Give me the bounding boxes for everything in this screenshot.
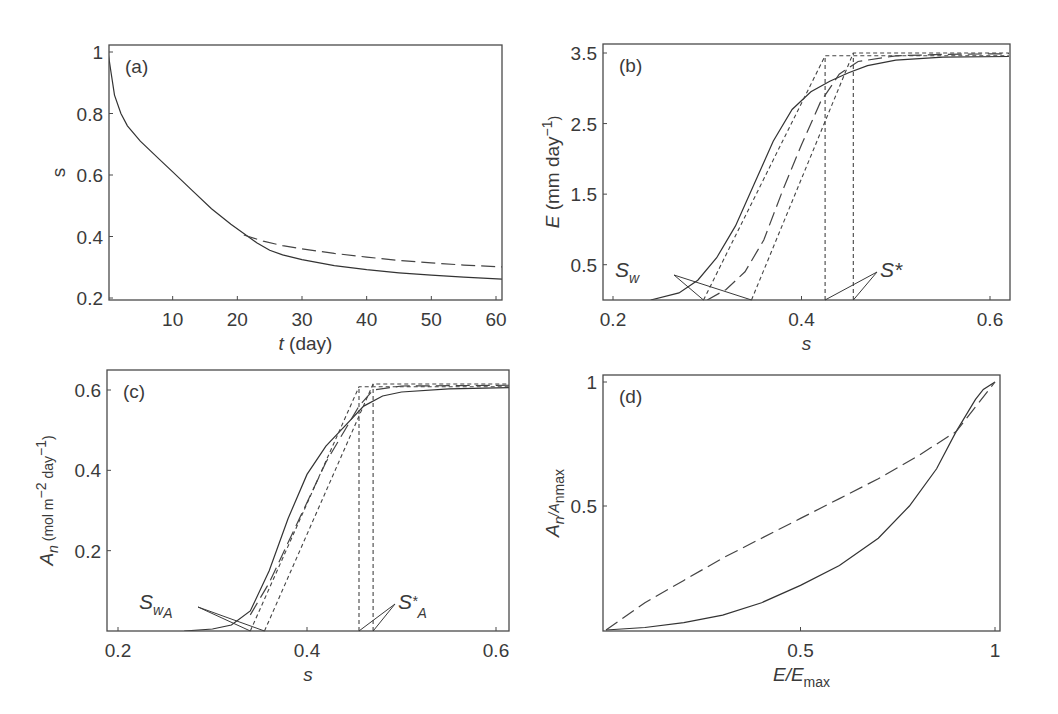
y-axis-label: An (mol m−2 day−1) <box>33 435 61 566</box>
annotations: SwAS*A <box>139 590 427 631</box>
x-tick-label: 30 <box>291 309 312 330</box>
series-dashed <box>250 385 515 615</box>
x-axis-label: s <box>802 333 812 354</box>
s-star-label: S* <box>880 258 903 281</box>
series-group <box>651 53 1009 300</box>
y-tick-label: 0.2 <box>77 288 103 309</box>
series-dashed <box>707 54 1009 300</box>
series-group <box>108 52 509 280</box>
y-axis-label: An/Anmax <box>542 469 567 538</box>
y-axis-label: E (mm day−1) <box>539 116 563 229</box>
panel-b: 0.20.40.60.51.52.53.5(b)sE (mm day−1)SwS… <box>539 43 1010 354</box>
y-tick-label: 0.2 <box>75 541 101 562</box>
axes-frame <box>603 44 1010 300</box>
y-tick-label: 0.6 <box>77 165 103 186</box>
x-tick-label: 0.4 <box>788 309 815 330</box>
y-tick-label: 3.5 <box>571 43 597 64</box>
series-group <box>184 384 515 631</box>
x-axis-label: s <box>303 664 313 685</box>
series-group <box>606 382 995 630</box>
panel-c: 0.20.40.60.20.40.6(c)sAn (mol m−2 day−1)… <box>33 370 515 685</box>
y-tick-label: 1.5 <box>571 184 597 205</box>
y-tick-label: 0.6 <box>75 380 101 401</box>
s-w-label: Sw <box>615 258 640 286</box>
y-tick-label: 2.5 <box>571 114 597 135</box>
series-dashed <box>244 235 509 267</box>
panel-label: (b) <box>619 55 642 76</box>
series-piecewise-linear-1 <box>250 387 515 631</box>
y-tick-label: 0.8 <box>77 104 103 125</box>
s-w-label: SwA <box>139 590 172 621</box>
annotation-pointer <box>198 607 264 631</box>
y-tick-label: 1 <box>586 372 597 393</box>
series-piecewise-linear-1 <box>704 56 1009 300</box>
x-tick-label: 1 <box>990 640 1001 661</box>
x-tick-label: 0.6 <box>483 640 509 661</box>
x-tick-label: 0.6 <box>977 309 1003 330</box>
panel-d: 0.510.51(d)E/EmaxAn/Anmax <box>542 372 1000 690</box>
figure: 1020304050600.20.40.60.81(a)t (day)s 0.2… <box>0 0 1058 714</box>
x-tick-label: 20 <box>227 309 248 330</box>
y-tick-label: 0.4 <box>75 460 102 481</box>
series-piecewise-linear-2 <box>265 384 515 631</box>
x-tick-label: 0.2 <box>600 309 626 330</box>
series-solid <box>108 52 509 280</box>
axes-frame <box>109 45 502 300</box>
panel-label: (c) <box>123 381 145 402</box>
x-axis-label: E/Emax <box>773 664 830 690</box>
panel-label: (a) <box>125 56 148 77</box>
annotation-pointer <box>825 272 877 300</box>
x-tick-label: 40 <box>356 309 377 330</box>
y-tick-label: 1 <box>92 42 103 63</box>
annotation-pointer <box>198 607 250 631</box>
x-axis-label: t (day) <box>279 333 333 354</box>
x-tick-label: 10 <box>162 309 183 330</box>
y-tick-label: 0.4 <box>77 227 104 248</box>
x-tick-label: 0.2 <box>105 640 131 661</box>
panel-label: (d) <box>619 386 642 407</box>
x-tick-label: 60 <box>485 309 506 330</box>
series-solid <box>184 388 515 631</box>
x-tick-label: 0.5 <box>787 640 813 661</box>
x-tick-label: 50 <box>421 309 442 330</box>
y-tick-label: 0.5 <box>571 496 597 517</box>
y-tick-label: 0.5 <box>571 255 597 276</box>
y-axis-label: s <box>48 168 69 178</box>
s-star-label: S*A <box>398 590 427 621</box>
panel-a: 1020304050600.20.40.60.81(a)t (day)s <box>48 42 509 354</box>
annotation-pointer <box>853 272 877 300</box>
series-dashed <box>606 382 995 630</box>
series-solid <box>651 57 1009 301</box>
annotations: SwS* <box>615 258 903 300</box>
x-tick-label: 0.4 <box>294 640 321 661</box>
series-solid <box>606 382 995 630</box>
